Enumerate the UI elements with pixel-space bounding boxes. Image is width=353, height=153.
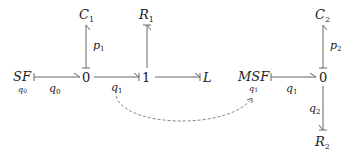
svg-text:q1: q1: [286, 82, 298, 96]
svg-text:q0: q0: [18, 85, 27, 94]
node-c2: C2: [315, 7, 330, 24]
svg-text:MSF: MSF: [237, 69, 270, 84]
svg-text:SF: SF: [13, 69, 32, 84]
svg-text:q2: q2: [309, 102, 321, 116]
node-c1: C1: [79, 7, 94, 24]
node-one-junction: 1: [142, 70, 150, 85]
bond-zero2-c2: p2: [319, 25, 342, 68]
bond-zero2-r2: q2: [309, 86, 327, 130]
svg-text:q1: q1: [111, 81, 123, 95]
node-r1: R1: [138, 7, 154, 24]
bond-one-l: [155, 73, 200, 81]
svg-text:q1: q1: [249, 84, 258, 93]
node-zero-junction-2: 0: [319, 70, 327, 85]
bond-sf-zero1: q0: [34, 73, 80, 96]
bond-one-r1: [143, 25, 151, 68]
svg-text:q0: q0: [49, 82, 61, 96]
bond-zero1-c1: p1: [82, 25, 105, 68]
bond-msf-zero2: q1: [271, 73, 316, 96]
node-zero-junction-1: 0: [82, 70, 90, 85]
svg-text:C1: C1: [79, 7, 94, 24]
node-sf: SF q0: [13, 69, 32, 94]
node-r2: R2: [314, 134, 330, 151]
svg-text:R2: R2: [314, 134, 330, 151]
signal-arrow-q1-to-msf: [116, 96, 252, 121]
bond-zero1-one: q1: [94, 73, 139, 95]
node-l: L: [202, 70, 212, 85]
svg-text:p1: p1: [93, 39, 105, 53]
svg-text:C2: C2: [315, 7, 330, 24]
svg-text:p2: p2: [330, 39, 342, 53]
bond-graph-diagram: SF q0 q0 0 p1 C1 q1 1 R1: [0, 0, 353, 153]
svg-text:R1: R1: [138, 7, 154, 24]
node-msf: MSF q1: [237, 69, 270, 93]
